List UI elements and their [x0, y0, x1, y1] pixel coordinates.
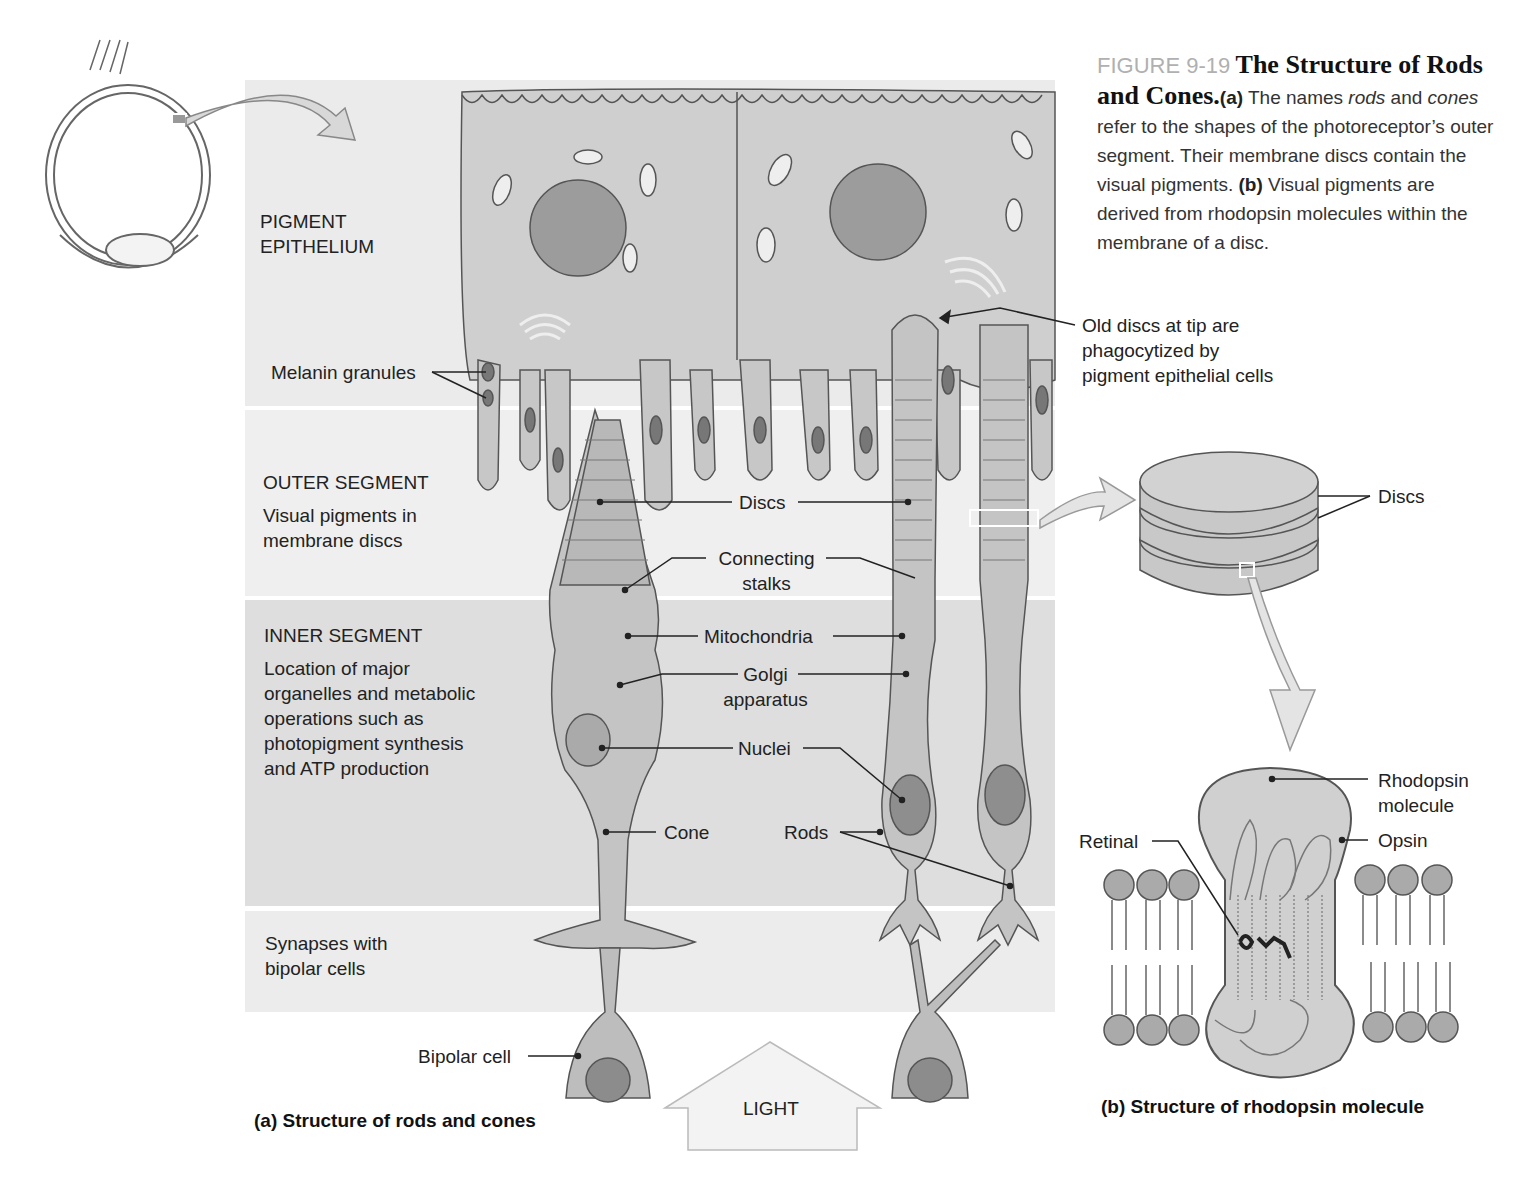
label-rhodopsin-molecule: Rhodopsin molecule [1378, 768, 1469, 818]
label-discs-a: Discs [739, 490, 785, 515]
label-inner-segment-desc: Location of major organelles and metabol… [264, 656, 475, 781]
caption-text: and [1385, 87, 1427, 108]
label-cone: Cone [664, 820, 709, 845]
label-inner-segment: INNER SEGMENT [264, 623, 422, 648]
label-melanin-granules: Melanin granules [271, 360, 416, 385]
label-opsin: Opsin [1378, 828, 1428, 853]
subtitle-panel-b: (b) Structure of rhodopsin molecule [1101, 1096, 1424, 1118]
label-old-discs: Old discs at tip are phagocytized by pig… [1082, 313, 1273, 388]
rhodopsin-molecule [1199, 768, 1354, 1078]
label-rods: Rods [784, 820, 828, 845]
label-light: LIGHT [743, 1096, 799, 1121]
rhodopsin-zoom-arrow [1248, 578, 1315, 750]
caption-cones: cones [1428, 87, 1479, 108]
rod-cell-2 [970, 325, 1038, 945]
label-mitochondria: Mitochondria [704, 624, 813, 649]
figure-number: FIGURE 9-19 [1097, 53, 1230, 78]
rod-cell-1 [880, 315, 940, 945]
part-a-marker: (a) [1220, 87, 1243, 108]
label-discs-b: Discs [1378, 484, 1424, 509]
figure-caption: FIGURE 9-19 The Structure of Rods and Co… [1097, 50, 1497, 257]
label-outer-segment-desc: Visual pigments in membrane discs [263, 503, 417, 553]
caption-rods: rods [1348, 87, 1385, 108]
label-retinal: Retinal [1079, 829, 1138, 854]
disc-stack [1140, 452, 1318, 595]
label-bipolar-cell: Bipolar cell [418, 1044, 511, 1069]
pigment-epithelial-cells [461, 89, 1055, 390]
label-connecting-stalks: Connecting stalks [709, 546, 824, 596]
label-pigment-epithelium: PIGMENT EPITHELIUM [260, 209, 374, 259]
zoom-arrow [186, 95, 355, 140]
label-golgi: Golgi apparatus [713, 662, 818, 712]
disc-zoom-arrow [1040, 478, 1135, 528]
part-b-marker: (b) [1239, 174, 1263, 195]
label-outer-segment: OUTER SEGMENT [263, 470, 429, 495]
label-synapses: Synapses with bipolar cells [265, 931, 388, 981]
caption-text: The names [1243, 87, 1348, 108]
label-nuclei: Nuclei [738, 736, 791, 761]
eyeball-icon [46, 40, 210, 268]
subtitle-panel-a: (a) Structure of rods and cones [254, 1110, 536, 1132]
